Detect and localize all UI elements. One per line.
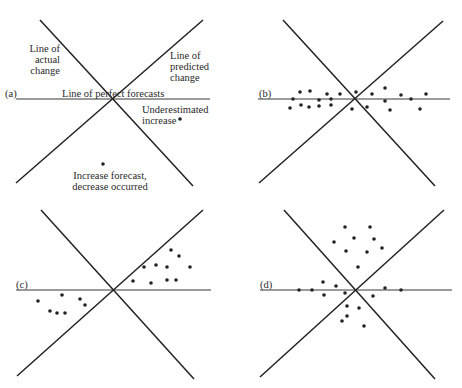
forecast-point (55, 311, 59, 315)
forecast-point (310, 288, 314, 292)
forecast-point (352, 236, 356, 240)
forecast-point (399, 93, 403, 97)
forecast-point (165, 278, 169, 282)
actual-change-line (40, 20, 193, 186)
forecast-point (169, 248, 173, 252)
forecast-point (83, 303, 87, 307)
forecast-point (329, 97, 333, 101)
forecast-point (60, 293, 64, 297)
actual-change-label: Line of actual change (18, 43, 60, 76)
forecast-point (165, 265, 169, 269)
panel-d-tag: (d) (260, 279, 272, 290)
forecast-point (350, 107, 354, 111)
forecast-point (399, 288, 403, 292)
forecast-point (78, 297, 82, 301)
forecast-point (288, 106, 292, 110)
forecast-point (383, 286, 387, 290)
forecast-point (101, 162, 105, 166)
forecast-point (48, 309, 52, 313)
actual-change-line (41, 210, 194, 379)
forecast-point (322, 293, 326, 297)
forecast-point (338, 92, 342, 96)
predicted-change-label-line2: predicted (170, 61, 209, 72)
actual-change-label-line3: change (18, 65, 60, 76)
actual-change-line (284, 210, 435, 379)
forecast-point (343, 225, 347, 229)
underestimated-label-line1: Underestimated (142, 104, 208, 115)
forecast-point (154, 263, 158, 267)
perfect-forecast-line-label: Line of perfect forecasts (62, 88, 164, 99)
forecast-point (357, 306, 361, 310)
predicted-change-line (260, 210, 444, 377)
forecast-point (356, 265, 360, 269)
forecast-point (370, 92, 374, 96)
panel-b (258, 20, 450, 186)
forecast-point (308, 89, 312, 93)
forecast-point (325, 92, 329, 96)
forecast-point (131, 279, 135, 283)
forecast-point (344, 249, 348, 253)
forecast-point (321, 280, 325, 284)
forecast-point (298, 90, 302, 94)
forecast-point (383, 86, 387, 90)
actual-change-line (283, 20, 435, 186)
forecast-point (354, 90, 358, 94)
forecast-point (371, 294, 375, 298)
forecast-point (388, 108, 392, 112)
wrong-direction-label-line2: decrease occurred (60, 181, 160, 192)
forecast-point (329, 103, 333, 107)
panel-c-tag: (c) (16, 279, 28, 290)
predicted-change-label: Line of predicted change (170, 50, 209, 83)
predicted-change-label-line3: change (170, 72, 209, 83)
panel-b-tag: (b) (259, 88, 271, 99)
predicted-change-line (17, 210, 203, 376)
forecast-point (291, 97, 295, 101)
predicted-change-line (259, 21, 443, 183)
forecast-point (317, 104, 321, 108)
forecast-point (418, 107, 422, 111)
diagram-canvas (0, 0, 462, 388)
forecast-point (424, 92, 428, 96)
forecast-point (177, 254, 181, 258)
forecast-point (297, 288, 301, 292)
forecast-point (345, 314, 349, 318)
forecast-point (332, 240, 336, 244)
forecast-point (188, 265, 192, 269)
wrong-direction-label: Increase forecast, decrease occurred (60, 170, 160, 192)
forecast-point (365, 105, 369, 109)
forecast-point (340, 319, 344, 323)
panel-d (260, 210, 452, 379)
forecast-point (299, 103, 303, 107)
forecast-point (343, 291, 347, 295)
forecast-point (317, 98, 321, 102)
forecast-point (383, 99, 387, 103)
forecast-error-diagram: (a) Line of perfect forecasts Line of ac… (0, 0, 462, 388)
forecast-point (380, 246, 384, 250)
underestimated-label-line2: increase (142, 115, 208, 126)
forecast-point (368, 225, 372, 229)
actual-change-label-line2: actual (18, 54, 60, 65)
forecast-point (149, 281, 153, 285)
forecast-point (362, 324, 366, 328)
panel-c (16, 210, 211, 379)
underestimated-increase-label: Underestimated increase (142, 104, 208, 126)
actual-change-label-line1: Line of (18, 43, 60, 54)
panel-a-tag: (a) (5, 88, 17, 99)
forecast-point (174, 278, 178, 282)
forecast-point (365, 250, 369, 254)
forecast-point (36, 299, 40, 303)
wrong-direction-label-line1: Increase forecast, (60, 170, 160, 181)
forecast-point (334, 284, 338, 288)
predicted-change-label-line1: Line of (170, 50, 209, 61)
forecast-point (307, 105, 311, 109)
forecast-point (372, 237, 376, 241)
forecast-point (409, 97, 413, 101)
forecast-point (345, 304, 349, 308)
forecast-point (142, 265, 146, 269)
forecast-point (63, 311, 67, 315)
